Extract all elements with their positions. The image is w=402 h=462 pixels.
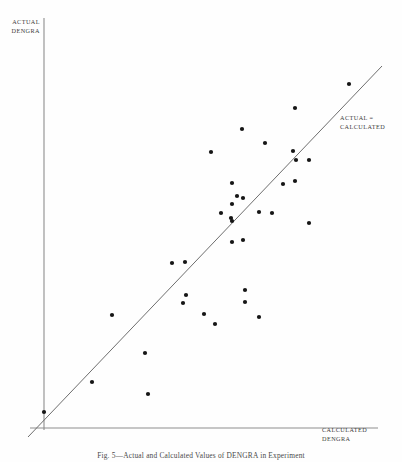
data-point-marker <box>42 410 46 414</box>
y-axis-label-line-1: ACTUAL <box>6 18 40 27</box>
reference-line-annotation: ACTUAL = CALCULATED <box>340 114 385 131</box>
data-point-marker <box>213 322 217 326</box>
x-axis-label: CALCULATED DENGRA <box>322 426 394 443</box>
data-point-marker <box>243 300 247 304</box>
data-points-group <box>42 82 351 414</box>
data-point-marker <box>230 181 234 185</box>
data-point-marker <box>181 301 185 305</box>
data-point-marker <box>307 158 311 162</box>
data-point-marker <box>241 238 245 242</box>
data-point-marker <box>257 210 261 214</box>
x-axis-label-line-2: DENGRA <box>322 435 394 444</box>
y-axis-label: ACTUAL DENGRA <box>6 18 40 35</box>
data-point-marker <box>209 150 213 154</box>
reference-line-annotation-line-2: CALCULATED <box>340 123 385 132</box>
data-point-marker <box>293 106 297 110</box>
data-point-marker <box>294 158 298 162</box>
reference-line-group <box>28 66 382 437</box>
figure-caption: Fig. 5—Actual and Calculated Values of D… <box>0 451 402 460</box>
data-point-marker <box>270 211 274 215</box>
data-point-marker <box>257 315 261 319</box>
data-point-marker <box>230 202 234 206</box>
data-point-marker <box>219 211 223 215</box>
data-point-marker <box>230 240 234 244</box>
data-point-marker <box>110 313 114 317</box>
data-point-marker <box>240 127 244 131</box>
x-axis-label-line-1: CALCULATED <box>322 426 394 435</box>
data-point-marker <box>230 219 234 223</box>
figure-container: ACTUAL DENGRA CALCULATED DENGRA ACTUAL =… <box>0 0 402 462</box>
data-point-marker <box>307 221 311 225</box>
scatter-plot-canvas <box>0 0 402 462</box>
data-point-marker <box>235 194 239 198</box>
data-point-marker <box>170 261 174 265</box>
data-point-marker <box>291 149 295 153</box>
data-point-marker <box>293 179 297 183</box>
axes-group <box>30 18 378 430</box>
data-point-marker <box>263 141 267 145</box>
data-point-marker <box>281 182 285 186</box>
reference-line-annotation-line-1: ACTUAL = <box>340 114 385 123</box>
data-point-marker <box>90 380 94 384</box>
data-point-marker <box>183 260 187 264</box>
data-point-marker <box>243 288 247 292</box>
data-point-marker <box>143 351 147 355</box>
data-point-marker <box>347 82 351 86</box>
data-point-marker <box>184 293 188 297</box>
data-point-marker <box>202 312 206 316</box>
y-axis-label-line-2: DENGRA <box>6 27 40 36</box>
data-point-marker <box>241 196 245 200</box>
data-point-marker <box>146 392 150 396</box>
reference-line-identity <box>28 66 382 437</box>
